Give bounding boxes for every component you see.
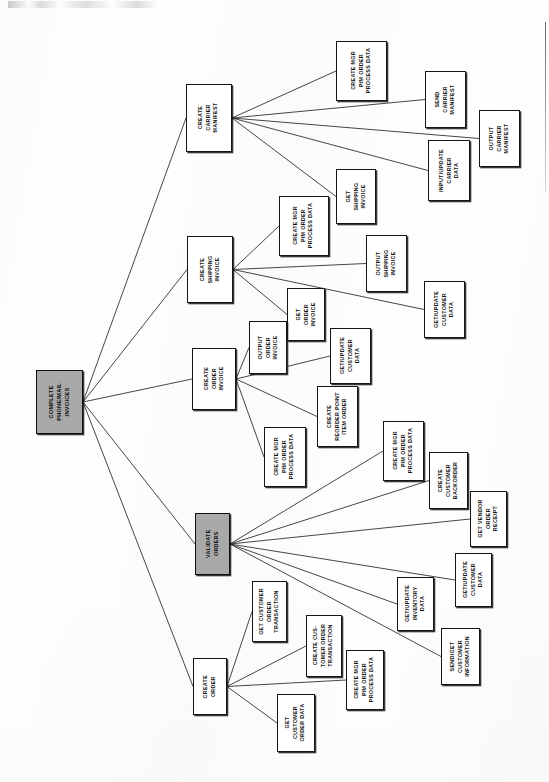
- connector-ccm-to-ccm4: [232, 118, 428, 171]
- connector-ccm-to-ccm2: [232, 100, 425, 119]
- connector-coi-to-coi1: [236, 348, 249, 380]
- process-node-coi[interactable]: CREATE ORDER INVOICE: [192, 348, 236, 410]
- process-node-label: GET/UPDATE INVENTORY DATA: [404, 585, 427, 622]
- process-node-csi2[interactable]: OUTPUT SHIPPING INVOICE: [366, 235, 407, 292]
- diagram-page: COMPLETE PHONE/MAIL INVOICESCREATE CARRI…: [0, 0, 549, 782]
- connector-co-to-co1: [227, 612, 252, 687]
- process-node-label: OUTPUT ORDER INVOICE: [256, 335, 279, 359]
- process-node-label: GET/UPDATE CUSTOMER DATA: [339, 337, 362, 374]
- process-node-coi1[interactable]: OUTPUT ORDER INVOICE: [249, 321, 287, 374]
- connector-ccm-to-ccm5: [232, 118, 336, 197]
- process-node-label: CREATE MGR P/M ORDER PROCESS DATA: [274, 434, 297, 479]
- process-node-ccm1[interactable]: CREATE MGR P/M ORDER PROCESS DATA: [336, 41, 387, 101]
- connector-vo-to-vo4: [230, 544, 455, 580]
- connector-vo-to-vo1: [230, 451, 383, 544]
- process-node-label: OUTPUT SHIPPING INVOICE: [375, 249, 398, 277]
- process-node-label: CREATE MGR P/M ORDER PROCESS DATA: [354, 657, 377, 702]
- process-node-ccm3[interactable]: OUTPUT CARRIER MANIFEST: [479, 110, 520, 167]
- process-node-vo4[interactable]: GET/UPDATE CUSTOMER DATA: [455, 553, 492, 607]
- process-node-csi[interactable]: CREATE SHIPPING INVOICE: [187, 236, 233, 303]
- process-node-co1[interactable]: GET CUSTOMER ORDER TRANSACTION: [252, 581, 287, 642]
- process-node-label: GET VENDOR ORDER RECEIPT: [477, 500, 500, 538]
- connector-csi-to-csi1: [233, 226, 279, 270]
- connector-root-to-vo: [83, 402, 195, 544]
- process-node-coi2[interactable]: GET/UPDATE CUSTOMER DATA: [330, 328, 371, 384]
- process-node-co3[interactable]: CREATE MGR P/M ORDER PROCESS DATA: [346, 650, 384, 710]
- process-node-label: VALIDATE ORDERS: [205, 530, 220, 558]
- process-node-label: INPUT/UPDATE CARRIER DATA: [438, 149, 461, 192]
- process-node-label: COMPLETE PHONE/MAIL INVOICES: [48, 383, 72, 421]
- connector-root-to-ccm: [83, 118, 186, 402]
- process-node-label: CREATE MGR P/M ORDER PROCESS DATA: [292, 203, 315, 248]
- process-node-label: CREATE CARRIER MANIFEST: [197, 103, 220, 133]
- process-node-csi4[interactable]: GET ORDER INVOICE: [287, 288, 325, 341]
- process-node-label: GET CUSTOMER ORDER DATA: [284, 704, 307, 742]
- process-node-label: GET/UPDATE CUSTOMER DATA: [433, 291, 456, 328]
- process-node-ccm4[interactable]: INPUT/UPDATE CARRIER DATA: [428, 140, 470, 201]
- process-node-label: CREATE SHIPPING INVOICE: [198, 255, 221, 283]
- process-node-ccm5[interactable]: GET SHIPPING INVOICE: [336, 169, 376, 224]
- page-edge-line: [545, 22, 546, 192]
- process-node-vo[interactable]: VALIDATE ORDERS: [195, 513, 230, 575]
- header-smudge-artifact: [8, 1, 158, 8]
- process-node-label: GET/UPDATE CUSTOMER DATA: [462, 561, 485, 598]
- process-node-label: OUTPUT CARRIER MANIFEST: [488, 124, 511, 154]
- process-node-vo3[interactable]: GET VENDOR ORDER RECEIPT: [470, 491, 507, 547]
- process-node-label: CREATE ORDER INVOICE: [202, 367, 225, 391]
- connector-csi-to-csi4: [233, 270, 287, 315]
- process-node-label: SEND CARRIER MANIFEST: [434, 85, 457, 115]
- process-node-label: GET SHIPPING INVOICE: [344, 182, 367, 210]
- process-node-label: CREATE MGR P/M ORDER PROCESS DATA: [392, 428, 415, 473]
- process-node-label: GET CUSTOMER ORDER TRANSACTION: [258, 588, 281, 635]
- process-node-coi3[interactable]: CREATE REORDER POINT ITEM ORDER: [317, 386, 358, 447]
- process-node-label: CREATE CUSTOMER BACKORDER: [437, 462, 460, 500]
- process-node-label: SEND/GET CUSTOMER INFORMATION: [449, 636, 472, 677]
- process-node-csi1[interactable]: CREATE MGR P/M ORDER PROCESS DATA: [279, 196, 329, 256]
- process-node-label: CREATE CUS- TOMER ORDER TRANSACTION: [313, 624, 336, 667]
- process-node-label: CREATE ORDER: [202, 675, 217, 698]
- process-node-vo1[interactable]: CREATE MGR P/M ORDER PROCESS DATA: [383, 421, 424, 481]
- process-node-coi4[interactable]: CREATE MGR P/M ORDER PROCESS DATA: [264, 427, 306, 487]
- process-node-co[interactable]: CREATE ORDER: [193, 658, 227, 715]
- connector-co-to-co4: [227, 687, 277, 724]
- connector-root-to-co: [83, 402, 193, 687]
- process-node-label: GET ORDER INVOICE: [294, 302, 317, 326]
- process-node-ccm2[interactable]: SEND CARRIER MANIFEST: [425, 71, 466, 128]
- connector-root-to-coi: [83, 379, 192, 402]
- process-node-vo5[interactable]: GET/UPDATE INVENTORY DATA: [397, 577, 434, 631]
- connector-ccm-to-ccm1: [232, 71, 336, 118]
- process-node-ccm[interactable]: CREATE CARRIER MANIFEST: [186, 84, 232, 152]
- connector-co-to-co3: [227, 680, 346, 687]
- connector-coi-to-coi4: [236, 379, 264, 457]
- process-node-label: CREATE REORDER POINT ITEM ORDER: [326, 392, 349, 441]
- connector-csi-to-csi2: [233, 264, 366, 270]
- connector-coi-to-coi3: [236, 379, 317, 417]
- process-node-co4[interactable]: GET CUSTOMER ORDER DATA: [277, 694, 315, 752]
- connector-vo-to-vo3: [230, 519, 470, 544]
- process-node-co2[interactable]: CREATE CUS- TOMER ORDER TRANSACTION: [306, 615, 342, 677]
- process-node-root[interactable]: COMPLETE PHONE/MAIL INVOICES: [36, 370, 83, 434]
- process-node-label: CREATE MGR P/M ORDER PROCESS DATA: [350, 48, 373, 93]
- process-node-vo6[interactable]: SEND/GET CUSTOMER INFORMATION: [441, 628, 480, 685]
- connector-co-to-co2: [227, 646, 306, 687]
- connector-vo-to-vo2: [230, 481, 429, 545]
- process-node-csi3[interactable]: GET/UPDATE CUSTOMER DATA: [424, 281, 465, 338]
- connector-root-to-csi: [83, 270, 187, 403]
- process-node-vo2[interactable]: CREATE CUSTOMER BACKORDER: [429, 452, 468, 509]
